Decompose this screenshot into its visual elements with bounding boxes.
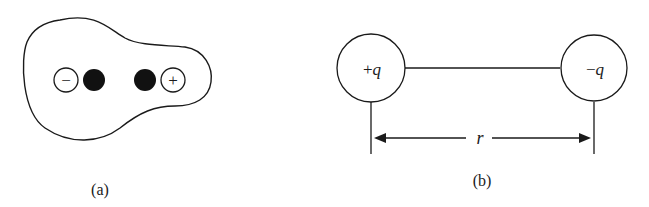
nucleus-dot <box>134 69 156 91</box>
svg-text:−: − <box>61 71 71 90</box>
right-charge-label: −q <box>586 60 605 79</box>
left-charge-label: +q <box>363 60 382 79</box>
caption-b: (b) <box>473 172 492 190</box>
panel-b: +q −q r (b) <box>337 34 627 190</box>
positive-charge-icon: + <box>161 68 185 92</box>
arrowhead-right-icon <box>579 133 591 143</box>
arrowhead-left-icon <box>374 133 386 143</box>
svg-text:+: + <box>168 71 178 90</box>
nucleus-dot <box>83 69 105 91</box>
dipole-diagram: − + (a) +q −q r (b) <box>0 0 649 207</box>
distance-label: r <box>476 128 484 148</box>
negative-charge-icon: − <box>54 68 78 92</box>
caption-a: (a) <box>91 181 109 199</box>
panel-a: − + (a) <box>23 18 211 199</box>
